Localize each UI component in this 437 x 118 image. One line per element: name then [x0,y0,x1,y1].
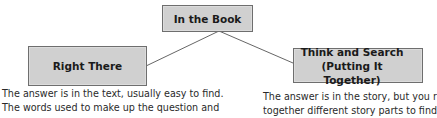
right-there-description: The answer is in the text, usually easy … [2,87,223,115]
node-label: In the Book [174,12,242,26]
node-sublabel: (Putting It Together) [294,59,410,87]
node-label: Think and Search [301,45,404,59]
description-line: together different story parts to find [263,104,437,118]
node-right-there: Right There [28,46,147,86]
description-line: The answer is in the text, usually easy … [2,87,223,101]
node-think-and-search: Think and Search (Putting It Together) [293,48,423,83]
node-label: Right There [53,59,122,73]
connector-root-to-think-and-search [219,31,293,63]
think-and-search-description: The answer is in the story, but you r to… [263,90,437,118]
description-line: The answer is in the story, but you r [263,90,437,104]
connector-root-to-right-there [146,31,219,66]
node-in-the-book: In the Book [162,5,253,32]
description-line: The words used to make up the question a… [2,101,223,115]
